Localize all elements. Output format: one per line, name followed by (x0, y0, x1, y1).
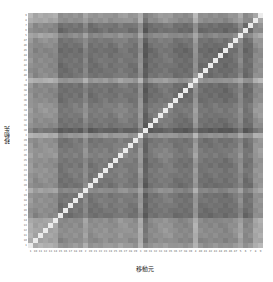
heatmap-grid (28, 13, 263, 248)
x-tick-label: 9 (258, 250, 263, 258)
y-axis-ticks: 1101112131415161718192202122232425262728… (17, 13, 27, 248)
heatmap-cell (258, 243, 263, 248)
y-axis-label: 移動先 (2, 120, 16, 150)
x-axis-ticks: 1101112131415161718192202122232425262728… (28, 250, 263, 258)
heatmap-chart: 1101112131415161718192202122232425262728… (0, 0, 273, 282)
y-tick-label: 1 (17, 243, 27, 248)
x-axis-label: 移動元 (125, 264, 165, 273)
